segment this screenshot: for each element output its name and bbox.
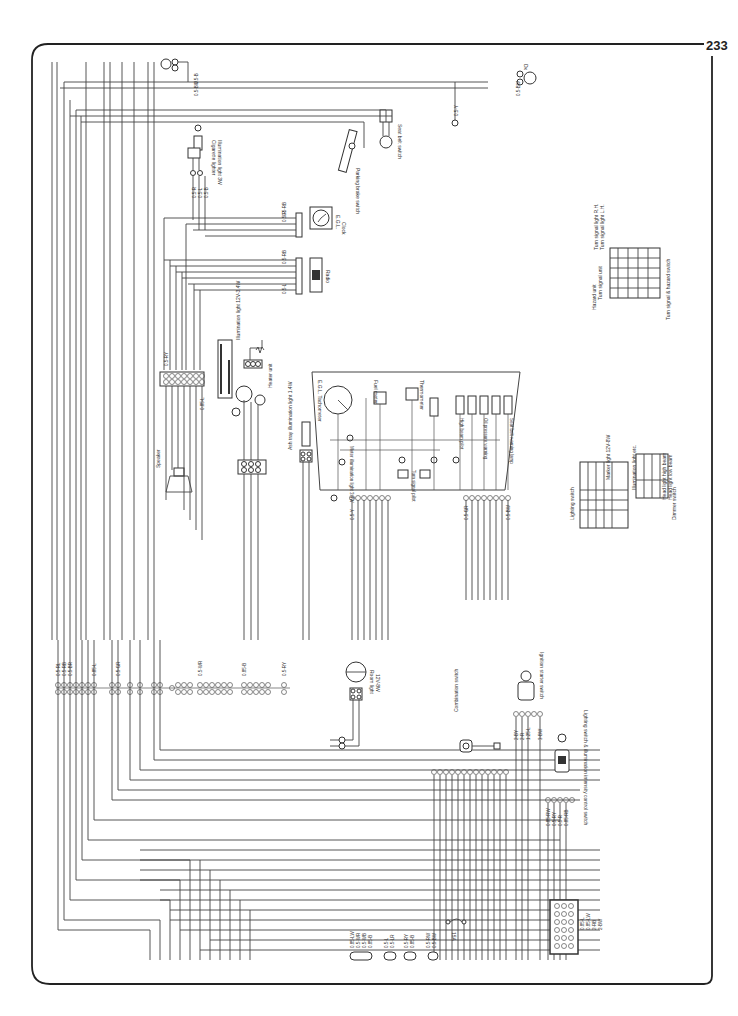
svg-text:0.85-L: 0.85-L xyxy=(92,663,97,676)
fuse-block xyxy=(550,900,578,954)
svg-text:0.85-L: 0.85-L xyxy=(580,917,585,930)
svg-text:0.5-BR: 0.5-BR xyxy=(68,661,73,676)
svg-text:0.85-B: 0.85-B xyxy=(242,663,247,676)
clock-label: E.G.L. xyxy=(335,215,341,229)
illumination-light-label: Illumination light 12V-3.4W xyxy=(235,281,241,340)
svg-text:0.5-R: 0.5-R xyxy=(558,814,563,826)
heater-unit: Heater unit xyxy=(232,340,273,416)
svg-text:0.5-WR: 0.5-WR xyxy=(356,932,361,948)
main-connector-row xyxy=(56,683,291,695)
svg-text:0.5-BW: 0.5-BW xyxy=(506,504,511,520)
lighting-switch-table: Lighting switch Illumination light etc. … xyxy=(569,434,637,528)
room-light-label: Room light xyxy=(369,670,375,695)
cigarette-lighter: Cigarette lighter Illumination light 3W xyxy=(188,125,223,230)
svg-text:Marker light 12V-8W: Marker light 12V-8W xyxy=(605,434,611,480)
svg-text:1.25-L: 1.25-L xyxy=(526,727,531,740)
speaker-wires xyxy=(166,386,202,540)
speaker: Speaker xyxy=(155,449,192,492)
illumination-light: Illumination light 12V-3.4W xyxy=(218,281,241,398)
fuse-label: 15A xyxy=(451,932,457,942)
svg-text:0.5-L: 0.5-L xyxy=(198,187,203,198)
svg-text:0.5-BW: 0.5-BW xyxy=(516,80,521,96)
svg-text:0.5-L: 0.5-L xyxy=(282,283,287,294)
svg-text:2-RB: 2-RB xyxy=(592,920,597,930)
combination-switch-label: Combination switch xyxy=(453,668,459,712)
radio-label: Radio xyxy=(325,270,331,283)
speaker-label: Speaker xyxy=(155,449,161,468)
svg-text:0.5-RY: 0.5-RY xyxy=(404,934,409,948)
door-switch-label: Dx xyxy=(523,64,529,71)
svg-text:0.5-Y: 0.5-Y xyxy=(350,509,355,520)
svg-text:0.5-B: 0.5-B xyxy=(204,187,209,198)
door-switch-left xyxy=(161,59,188,82)
svg-text:12V-8W: 12V-8W xyxy=(375,674,381,692)
svg-text:0.5-RY: 0.5-RY xyxy=(282,662,287,676)
svg-text:0.85-B: 0.85-B xyxy=(410,935,415,948)
combination-switch: Combination switch xyxy=(432,668,509,960)
svg-text:2-R: 2-R xyxy=(520,732,525,740)
svg-text:Turn signal unit: Turn signal unit xyxy=(597,265,603,300)
svg-text:0.85-RW: 0.85-RW xyxy=(546,808,551,826)
parking-brake-switch: Parking brake switch xyxy=(338,122,364,214)
svg-text:Turn signal light L.H.: Turn signal light L.H. xyxy=(599,204,605,250)
seat-belt-warning-label: Seat belt warning lamp xyxy=(509,418,514,464)
tachometer-label: E.G.L. Tachometer xyxy=(317,380,323,422)
lighting-switch-label: Lighting switch & illumination intensity… xyxy=(583,710,589,826)
speaker-connector xyxy=(160,372,205,386)
ground-terminal xyxy=(452,120,458,126)
cigarette-lighter-label: Cigarette lighter xyxy=(211,140,217,176)
wire-code-labels: 0.5-B 0.5-BW 0.5-BW 0.5-Y 0.5-RB 0.5-R 0… xyxy=(56,73,603,948)
svg-text:0.85-L: 0.85-L xyxy=(200,397,205,410)
ignition-switch-label: Ignition starter switch xyxy=(539,652,545,699)
parking-brake-label: Parking brake switch xyxy=(355,168,361,214)
svg-text:Head light low beam: Head light low beam xyxy=(667,455,673,500)
svg-text:0.5-GR: 0.5-GR xyxy=(116,661,121,676)
cluster-connector-right xyxy=(464,496,511,601)
svg-text:0.5-RY: 0.5-RY xyxy=(164,352,169,366)
fuel-meter-label: Fuel meter xyxy=(373,380,379,404)
svg-text:0.85-RB: 0.85-RB xyxy=(564,809,569,826)
svg-text:3-BW: 3-BW xyxy=(538,728,543,740)
svg-text:2-BY: 2-BY xyxy=(514,730,519,740)
svg-text:0.5-RB: 0.5-RB xyxy=(62,662,67,676)
radio: Radio xyxy=(164,258,331,294)
svg-text:0.5-L: 0.5-L xyxy=(384,937,389,948)
svg-text:0.5-R: 0.5-R xyxy=(282,210,287,222)
svg-text:0.85-LW: 0.85-LW xyxy=(350,931,355,948)
ash-tray-light: Ash tray illumination light 1.4W xyxy=(287,381,312,640)
ignition-switch: Ignition starter switch xyxy=(514,652,546,960)
turn-signal-hazard-table: Turn signal & hazard switch Hazard unit … xyxy=(591,204,671,321)
meter-illumination-label: Meter illumination light 3.4W xyxy=(349,446,354,503)
heater-unit-label: Heater unit xyxy=(267,363,273,388)
svg-text:0.5-R: 0.5-R xyxy=(192,186,197,198)
svg-text:0.5-LR: 0.5-LR xyxy=(390,934,395,948)
clock-wires xyxy=(164,218,296,236)
svg-text:0.5-GR: 0.5-GR xyxy=(464,505,469,520)
svg-text:0.5-RY: 0.5-RY xyxy=(552,812,557,826)
heater-connector xyxy=(238,400,266,640)
svg-text:0.5-WR: 0.5-WR xyxy=(198,660,203,676)
svg-text:0.85-B: 0.85-B xyxy=(368,935,373,948)
svg-text:0.5-BW: 0.5-BW xyxy=(432,932,437,948)
room-light: Room light 12V-8W xyxy=(330,662,381,749)
accessory-verticals xyxy=(164,218,200,370)
thermometer-label: Thermometer xyxy=(419,380,425,410)
instrument-cluster: E.G.L. Tachometer Fuel meter Thermometer… xyxy=(312,372,520,503)
turn-signal-title: Turn signal & hazard switch xyxy=(665,259,671,320)
svg-text:0.5-Y: 0.5-Y xyxy=(454,105,459,116)
left-trunk-wires xyxy=(52,62,154,640)
seat-belt-switch: Seat belt switch xyxy=(380,110,403,159)
svg-text:0.5-RB: 0.5-RB xyxy=(282,250,287,264)
wiring-diagram: Dx Seat belt switch Parking brake switch… xyxy=(0,0,738,1016)
svg-text:0.5-RW: 0.5-RW xyxy=(426,932,431,948)
svg-text:2-BW: 2-BW xyxy=(598,918,603,930)
top-horizontal-wires xyxy=(60,82,488,122)
svg-text:0.5-RL: 0.5-RL xyxy=(56,662,61,676)
seat-belt-switch-label: Seat belt switch xyxy=(397,124,403,159)
svg-text:Clock: Clock xyxy=(341,222,347,235)
svg-text:0.5-BW: 0.5-BW xyxy=(194,80,199,96)
dimmer-switch-table: Dimmer switch Head light high beam Head … xyxy=(636,453,677,520)
svg-text:0.5-WB: 0.5-WB xyxy=(362,933,367,948)
clock: E.G.L. Clock xyxy=(296,207,347,237)
cluster-connector-left xyxy=(331,495,391,640)
